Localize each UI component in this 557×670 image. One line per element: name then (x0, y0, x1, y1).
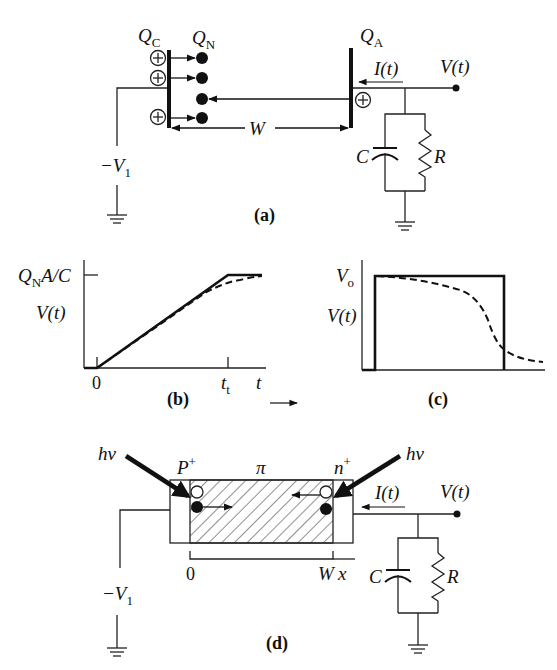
y-axis-label: V(t) (36, 302, 66, 324)
x-axis-label: x (337, 563, 347, 584)
label-q-a: QA (360, 25, 384, 50)
x-w-label: W (318, 563, 336, 584)
capacitor-icon (385, 570, 411, 613)
electron-dot (196, 72, 208, 84)
output-terminal (454, 511, 461, 518)
hole-icon (191, 486, 203, 498)
x-axis-label: t (256, 372, 262, 393)
panel-d: P+ π n+ hv hv 0 W x −V1 V(t) (98, 443, 470, 656)
label-bias: −V1 (100, 155, 131, 180)
label-capacitor: C (356, 146, 369, 167)
label-photon-right: hv (406, 443, 425, 464)
panel-a: QC QN QA W (100, 25, 470, 230)
caption-d: (d) (266, 633, 288, 654)
output-terminal (453, 85, 460, 92)
label-voltage: V(t) (440, 56, 470, 78)
ground-icon (107, 648, 127, 656)
capacitor-icon (372, 140, 398, 191)
actual-curve (97, 276, 262, 368)
y-top-label: Vo (336, 265, 354, 290)
ground-icon (107, 215, 127, 223)
positive-charge-icon (356, 93, 371, 108)
panel-b: QNA/C V(t) 0 tt t (b) (18, 260, 297, 410)
positive-charge-icon (151, 51, 166, 66)
positive-charge-icon (151, 110, 166, 125)
electron-icon (320, 503, 332, 515)
ground-icon (408, 645, 428, 653)
ideal-pulse (362, 276, 504, 370)
x-zero-label: 0 (186, 564, 195, 584)
x-tt-label: tt (221, 372, 230, 397)
rc-top-wire (385, 114, 425, 140)
x-zero-label: 0 (92, 373, 101, 393)
electron-dot (196, 52, 208, 64)
resistor-icon (419, 130, 431, 191)
electron-dot (196, 112, 208, 124)
label-current: I(t) (374, 482, 399, 504)
electron-icon (191, 501, 203, 513)
y-axis-label: V(t) (327, 305, 357, 327)
label-resistor: R (446, 566, 459, 587)
label-bias: −V1 (102, 583, 133, 608)
figure-canvas: QC QN QA W (0, 0, 557, 670)
label-current: I(t) (373, 58, 398, 80)
label-voltage: V(t) (440, 481, 470, 503)
y-top-label: QNA/C (18, 265, 71, 290)
positive-charge-icon (151, 71, 166, 86)
bias-wire (120, 510, 170, 568)
label-p-region: P+ (176, 454, 196, 478)
caption-c: (c) (428, 389, 448, 410)
label-pi-region: π (256, 457, 266, 478)
pi-region (190, 480, 333, 543)
panel-c: Vo V(t) (c) (327, 260, 545, 410)
resistor-icon (432, 553, 444, 613)
x-axis (190, 551, 333, 559)
rc-top-wire (398, 538, 438, 570)
label-q-c: QC (138, 25, 160, 50)
label-capacitor: C (369, 566, 382, 587)
actual-response (377, 276, 543, 362)
ground-icon (395, 222, 415, 230)
label-width: W (249, 118, 267, 139)
caption-b: (b) (167, 389, 189, 410)
electron-dot (196, 93, 208, 105)
label-photon-left: hv (98, 443, 117, 464)
label-resistor: R (433, 146, 446, 167)
hole-icon (320, 486, 332, 498)
label-q-n: QN (192, 27, 216, 52)
ideal-curve (84, 275, 262, 368)
caption-a: (a) (254, 205, 275, 226)
label-n-region: n+ (334, 454, 351, 478)
